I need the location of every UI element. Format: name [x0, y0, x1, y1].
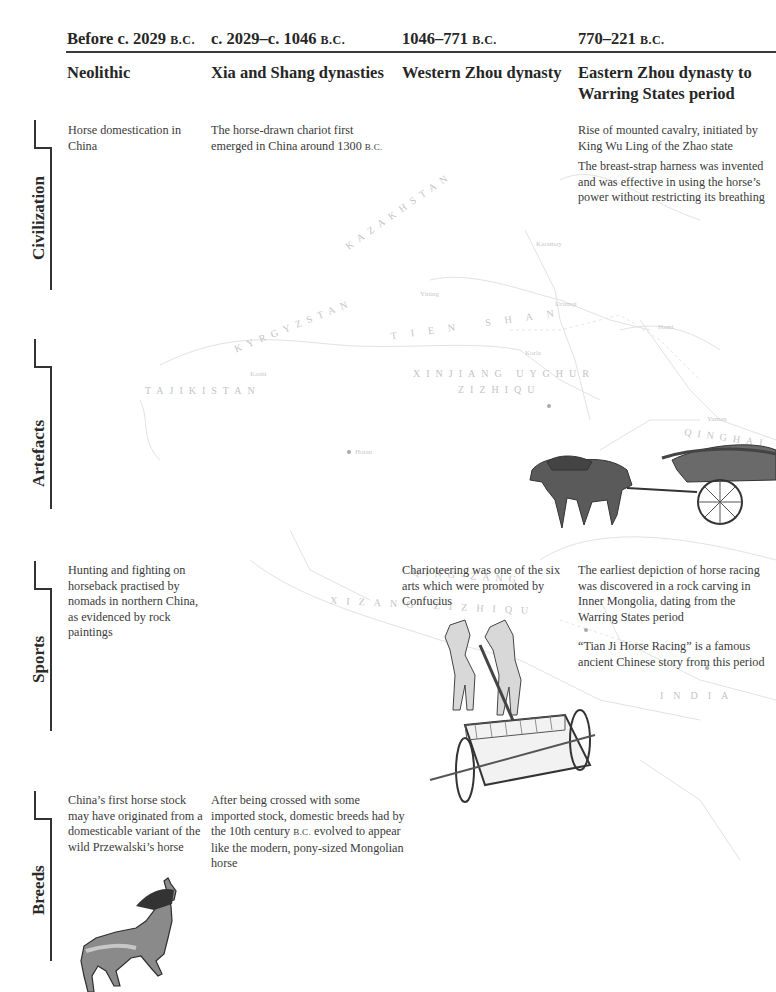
date-column-xia-shang: c. 2029–c. 1046 B.C.	[211, 29, 345, 49]
timeline-header: Before c. 2029 B.C. c. 2029–c. 1046 B.C.…	[0, 0, 776, 100]
category-label: Breeds	[29, 865, 49, 915]
period-eastern-zhou: Eastern Zhou dynasty to Warring States p…	[578, 62, 776, 104]
civilization-eastern-zhou-item: Rise of mounted cavalry, initiated by Ki…	[578, 123, 774, 154]
sports-eastern-zhou-item: “Tian Ji Horse Racing” is a famous ancie…	[578, 639, 774, 670]
map-city-hotan: Hotan	[355, 448, 372, 456]
two-horse-chariot-illustration	[425, 615, 600, 810]
date-column-western-zhou: 1046–771 B.C.	[402, 29, 497, 49]
breeds-xia-shang: After being crossed with some imported s…	[211, 793, 406, 872]
civilization-eastern-zhou-item: The breast-strap harness was invented an…	[578, 159, 774, 206]
map-label-zizhiqu: ZIZHIQU	[458, 384, 541, 395]
civilization-eastern-zhou: Rise of mounted cavalry, initiated by Ki…	[578, 123, 774, 211]
date-column-eastern-zhou: 770–221 B.C.	[578, 29, 665, 49]
date-column-neolithic: Before c. 2029 B.C.	[67, 29, 195, 49]
header-divider	[66, 51, 776, 53]
map-label-xinjiang: XINJIANG UYGHUR	[413, 368, 595, 379]
category-label: Sports	[29, 636, 49, 683]
civilization-neolithic: Horse domestication in China	[68, 123, 198, 154]
sports-eastern-zhou: The earliest depiction of horse racing w…	[578, 563, 774, 675]
sports-eastern-zhou-item: The earliest depiction of horse racing w…	[578, 563, 774, 625]
sports-neolithic: Hunting and fighting on horseback practi…	[68, 563, 198, 641]
map-label-india: INDIA	[660, 690, 738, 701]
map-city-yining: Yining	[420, 290, 439, 298]
map-city-hami: Hami	[658, 323, 674, 331]
category-label: Civilization	[29, 176, 49, 260]
map-city-korla: Korla	[525, 349, 541, 357]
covered-chariot-illustration	[522, 440, 776, 540]
period-western-zhou: Western Zhou dynasty	[402, 62, 562, 83]
map-city-kashi: Kashi	[250, 370, 266, 378]
map-city-urumqi: Urumqi	[555, 300, 577, 308]
category-label: Artefacts	[29, 420, 49, 487]
map-city-yumen: Yumen	[707, 415, 727, 423]
period-neolithic: Neolithic	[67, 62, 130, 83]
przewalski-horse-illustration	[76, 876, 186, 992]
breeds-neolithic: China’s first horse stock may have origi…	[68, 793, 208, 855]
map-label-tajikistan: TAJIKISTAN	[145, 385, 261, 396]
period-xia-shang: Xia and Shang dynasties	[211, 62, 384, 83]
map-city-karamay: Karamay	[536, 240, 562, 248]
civilization-xia-shang: The horse-drawn chariot first emerged in…	[211, 123, 396, 155]
category-breeds: Breeds	[32, 791, 54, 961]
category-sports: Sports	[32, 561, 54, 731]
category-artefacts: Artefacts	[32, 339, 54, 509]
sports-western-zhou: Charioteering was one of the six arts wh…	[402, 563, 577, 610]
category-civilization: Civilization	[32, 120, 54, 290]
